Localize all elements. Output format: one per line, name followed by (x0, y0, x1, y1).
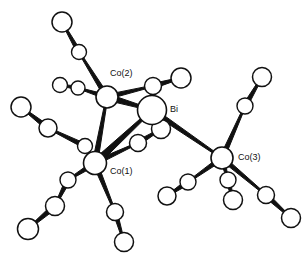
atom-o2a (52, 12, 72, 32)
atom-o3a (253, 68, 272, 87)
atom-c3b (258, 187, 275, 204)
atom-c1c (60, 172, 76, 188)
atom-o2c (171, 68, 191, 88)
atom-c3d (220, 172, 236, 188)
atom-c1f (130, 135, 147, 152)
atom-c1e (107, 204, 124, 221)
atom-co2 (96, 86, 118, 108)
molecular-structure-figure: Co(2)BiCo(3)Co(1) (0, 0, 308, 257)
atom-bi (138, 96, 167, 125)
molecule-diagram: Co(2)BiCo(3)Co(1) (0, 0, 308, 257)
atom-o3d (224, 191, 243, 210)
label-co3: Co(3) (238, 152, 261, 162)
atom-o2b (53, 78, 68, 93)
atom-o3c (158, 187, 176, 205)
atom-co1 (84, 152, 107, 175)
atom-o1e (115, 233, 134, 252)
atoms-layer (11, 12, 301, 252)
atom-c3a (237, 98, 253, 114)
atom-co3 (211, 147, 233, 169)
atom-c1b (39, 119, 57, 137)
atom-o3b (282, 209, 301, 228)
atom-c1a (78, 139, 93, 154)
bond-co3-c3a (222, 107, 245, 153)
label-co1: Co(1) (110, 166, 133, 176)
label-bi: Bi (170, 104, 178, 114)
label-co2: Co(2) (110, 68, 133, 78)
atom-c3c (180, 174, 196, 190)
atom-c2b (71, 81, 85, 95)
atom-c1d (46, 197, 65, 216)
atom-o1b (11, 97, 31, 117)
atom-o1d (18, 219, 39, 240)
atom-c2c (145, 78, 162, 95)
atom-c2a (72, 45, 87, 60)
